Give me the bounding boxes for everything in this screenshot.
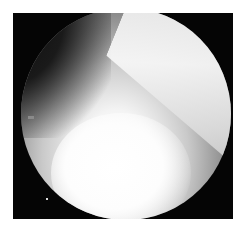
edge-notch: [28, 116, 34, 119]
image-frame: [13, 13, 233, 219]
lower-bright-surface: [51, 113, 191, 219]
scope-field-of-view: [21, 13, 231, 219]
speck: [46, 198, 48, 200]
